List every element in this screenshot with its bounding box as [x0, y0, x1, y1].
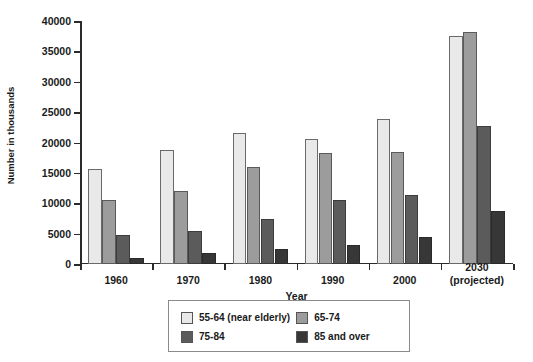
x-axis-tick [369, 264, 371, 270]
bar [477, 126, 491, 264]
bar [261, 219, 275, 264]
bar [102, 200, 116, 264]
legend-swatch [296, 331, 308, 343]
bar-chart: Number in thousands 05000100001500020000… [0, 0, 533, 362]
legend-label: 55-64 (near elderly) [199, 312, 290, 323]
legend-item[interactable]: 75-84 [181, 331, 290, 343]
legend-item[interactable]: 65-74 [296, 312, 397, 324]
x-axis-category-label: 1970 [152, 274, 224, 286]
legend-item[interactable]: 55-64 (near elderly) [181, 312, 290, 324]
x-axis-category-label: 1990 [297, 274, 369, 286]
x-axis-category-label: 2030(projected) [441, 261, 513, 286]
bar [116, 235, 130, 264]
bar-group: 1980 [224, 21, 296, 264]
bar [275, 249, 289, 264]
legend-item[interactable]: 85 and over [296, 331, 397, 343]
y-axis-tick-label: 40000 [42, 16, 71, 27]
x-axis-category-sublabel: (projected) [441, 274, 513, 286]
bar [347, 245, 361, 264]
bar [88, 169, 102, 264]
bar [160, 150, 174, 264]
bar [247, 167, 261, 264]
x-axis-category-label: 1960 [80, 274, 152, 286]
bar-group: 2000 [369, 21, 441, 264]
bar-group: 1960 [80, 21, 152, 264]
y-axis-tick-label: 15000 [42, 168, 71, 179]
legend-label: 75-84 [199, 331, 225, 342]
bar [463, 32, 477, 264]
legend: 55-64 (near elderly)65-7475-8485 and ove… [168, 300, 410, 352]
bar [333, 200, 347, 264]
y-axis-tick-label: 25000 [42, 107, 71, 118]
x-axis-tick [80, 264, 82, 270]
y-axis-tick-label: 20000 [42, 137, 71, 148]
plot-area: 0500010000150002000025000300003500040000… [80, 21, 513, 264]
y-axis-tick-label: 0 [65, 259, 71, 270]
bar [305, 139, 319, 264]
bar [377, 119, 391, 264]
bar [491, 211, 505, 264]
x-axis-tick [152, 264, 154, 270]
bar [405, 195, 419, 264]
x-axis-tick [513, 264, 515, 270]
bar [188, 231, 202, 264]
bar-group: 2030(projected) [441, 21, 513, 264]
y-axis-title-wrap: Number in thousands [0, 55, 20, 225]
legend-swatch [181, 312, 193, 324]
x-axis-tick [297, 264, 299, 270]
y-axis-tick-label: 5000 [48, 228, 71, 239]
y-axis-title: Number in thousands [5, 51, 16, 221]
x-axis-category-label: 1980 [224, 274, 296, 286]
y-axis-tick-label: 35000 [42, 46, 71, 57]
bar [202, 253, 216, 264]
y-axis-tick-label: 10000 [42, 198, 71, 209]
bar-group: 1990 [297, 21, 369, 264]
bar [449, 36, 463, 264]
bar [319, 153, 333, 264]
bar-group: 1970 [152, 21, 224, 264]
legend-label: 65-74 [314, 312, 340, 323]
legend-label: 85 and over [314, 331, 370, 342]
bar [130, 258, 144, 264]
x-axis-category-label: 2000 [369, 274, 441, 286]
bar [391, 152, 405, 264]
legend-swatch [296, 312, 308, 324]
x-axis-tick [224, 264, 226, 270]
bar [233, 133, 247, 264]
bar [174, 191, 188, 264]
bar [419, 237, 433, 264]
y-axis-tick-label: 30000 [42, 77, 71, 88]
legend-swatch [181, 331, 193, 343]
legend-grid: 55-64 (near elderly)65-7475-8485 and ove… [169, 301, 409, 351]
